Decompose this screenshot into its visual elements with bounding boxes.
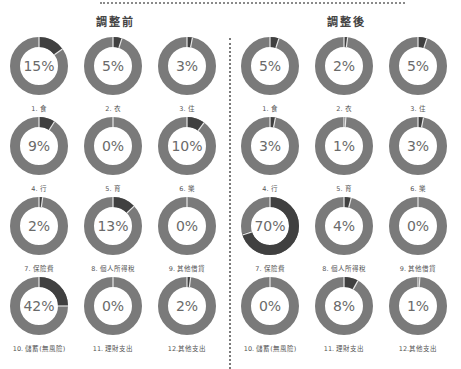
donut-category-label: 4. 行 (1, 183, 77, 193)
panel-title-after: 調整後 (231, 13, 461, 29)
donut-chart-item: 70%7. 保險費 (232, 194, 308, 274)
donut-chart-item: 2%12.其他支出 (149, 274, 225, 354)
donut-percentage: 5% (84, 37, 142, 95)
donut-percentage: 1% (315, 117, 373, 175)
donut-category-label: 9. 其他借貸 (380, 263, 456, 273)
donut-category-label: 8. 個人所得稅 (75, 263, 151, 273)
donut-chart-item: 15%1. 食 (1, 34, 77, 114)
donut-category-label: 8. 個人所得稅 (306, 263, 382, 273)
donut-chart-item: 0%9. 其他借貸 (149, 194, 225, 274)
donut-category-label: 7. 保險費 (1, 263, 77, 273)
donut-ring: 8% (315, 277, 373, 335)
donut-percentage: 15% (10, 37, 68, 95)
donut-percentage: 0% (158, 197, 216, 255)
donut-category-label: 10. 儲蓄(無風險) (1, 343, 77, 353)
donut-chart-item: 1%12.其他支出 (380, 274, 456, 354)
donut-ring: 2% (10, 197, 68, 255)
panel-before: 調整前 15%1. 食5%2. 衣3%3. 住9%4. 行0%5. 育10%6.… (0, 0, 230, 369)
donut-chart-item: 0%11. 理財支出 (75, 274, 151, 354)
donut-ring: 5% (84, 37, 142, 95)
donut-percentage: 0% (84, 117, 142, 175)
donut-category-label: 6. 樂 (380, 183, 456, 193)
donut-ring: 10% (158, 117, 216, 175)
donut-percentage: 2% (10, 197, 68, 255)
donut-category-label: 4. 行 (232, 183, 308, 193)
donut-ring: 3% (158, 37, 216, 95)
donut-chart-item: 3%4. 行 (232, 114, 308, 194)
donut-ring: 3% (241, 117, 299, 175)
donut-chart-item: 0%5. 育 (75, 114, 151, 194)
donut-ring: 70% (241, 197, 299, 255)
donut-percentage: 5% (241, 37, 299, 95)
donut-chart-item: 8%11. 理財支出 (306, 274, 382, 354)
donut-percentage: 1% (389, 277, 447, 335)
donut-chart-item: 2%7. 保險費 (1, 194, 77, 274)
donut-category-label: 11. 理財支出 (306, 343, 382, 353)
donut-category-label: 11. 理財支出 (75, 343, 151, 353)
donut-category-label: 3. 住 (149, 103, 225, 113)
donut-category-label: 5. 育 (75, 183, 151, 193)
donut-ring: 5% (241, 37, 299, 95)
donut-ring: 0% (241, 277, 299, 335)
donut-chart-item: 5%1. 食 (232, 34, 308, 114)
donut-percentage: 0% (241, 277, 299, 335)
donut-ring: 0% (84, 277, 142, 335)
donut-ring: 1% (315, 117, 373, 175)
donut-category-label: 10. 儲蓄(無風險) (232, 343, 308, 353)
donut-percentage: 9% (10, 117, 68, 175)
donut-ring: 9% (10, 117, 68, 175)
donut-category-label: 3. 住 (380, 103, 456, 113)
donut-chart-item: 9%4. 行 (1, 114, 77, 194)
donut-chart-item: 4%8. 個人所得稅 (306, 194, 382, 274)
donut-ring: 4% (315, 197, 373, 255)
donut-percentage: 10% (158, 117, 216, 175)
donut-percentage: 3% (241, 117, 299, 175)
donut-ring: 0% (84, 117, 142, 175)
donut-percentage: 4% (315, 197, 373, 255)
donut-category-label: 7. 保險費 (232, 263, 308, 273)
donut-chart-item: 0%9. 其他借貸 (380, 194, 456, 274)
donut-percentage: 2% (315, 37, 373, 95)
donut-chart-item: 5%2. 衣 (75, 34, 151, 114)
donut-ring: 42% (10, 277, 68, 335)
donut-category-label: 1. 食 (1, 103, 77, 113)
donut-percentage: 3% (389, 117, 447, 175)
donut-chart-item: 2%2. 衣 (306, 34, 382, 114)
donut-ring: 2% (315, 37, 373, 95)
donut-ring: 2% (158, 277, 216, 335)
donut-chart-item: 13%8. 個人所得稅 (75, 194, 151, 274)
donut-category-label: 5. 育 (306, 183, 382, 193)
panel-after: 調整後 5%1. 食2%2. 衣5%3. 住3%4. 行1%5. 育3%6. 樂… (231, 0, 461, 369)
donut-category-label: 12.其他支出 (149, 343, 225, 353)
donut-ring: 0% (389, 197, 447, 255)
donut-chart-item: 5%3. 住 (380, 34, 456, 114)
donut-percentage: 70% (241, 197, 299, 255)
donut-percentage: 5% (389, 37, 447, 95)
donut-percentage: 42% (10, 277, 68, 335)
donut-percentage: 0% (389, 197, 447, 255)
panel-title-before: 調整前 (0, 13, 230, 29)
donut-ring: 1% (389, 277, 447, 335)
donut-category-label: 6. 樂 (149, 183, 225, 193)
donut-chart-item: 3%3. 住 (149, 34, 225, 114)
donut-ring: 0% (158, 197, 216, 255)
donut-category-label: 9. 其他借貸 (149, 263, 225, 273)
donut-chart-item: 3%6. 樂 (380, 114, 456, 194)
donut-category-label: 12.其他支出 (380, 343, 456, 353)
donut-ring: 5% (389, 37, 447, 95)
donut-percentage: 8% (315, 277, 373, 335)
donut-category-label: 1. 食 (232, 103, 308, 113)
donut-chart-item: 42%10. 儲蓄(無風險) (1, 274, 77, 354)
donut-chart-item: 10%6. 樂 (149, 114, 225, 194)
donut-ring: 3% (389, 117, 447, 175)
donut-ring: 13% (84, 197, 142, 255)
donut-percentage: 13% (84, 197, 142, 255)
donut-chart-item: 1%5. 育 (306, 114, 382, 194)
donut-chart-item: 0%10. 儲蓄(無風險) (232, 274, 308, 354)
donut-percentage: 3% (158, 37, 216, 95)
donut-category-label: 2. 衣 (75, 103, 151, 113)
donut-category-label: 2. 衣 (306, 103, 382, 113)
donut-percentage: 0% (84, 277, 142, 335)
donut-percentage: 2% (158, 277, 216, 335)
donut-ring: 15% (10, 37, 68, 95)
